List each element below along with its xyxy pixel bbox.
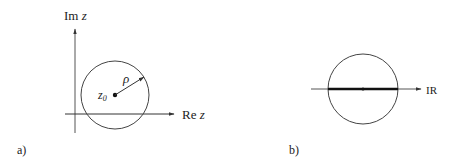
panel-a-label: a) bbox=[17, 143, 26, 157]
im-axis-label: Im z bbox=[64, 8, 87, 23]
diagram-canvas: Im z Re z z0 ρ a) IR b) bbox=[0, 0, 450, 165]
real-axis-label: IR bbox=[426, 84, 438, 96]
panel-b: IR b) bbox=[289, 54, 438, 157]
panel-b-label: b) bbox=[289, 143, 299, 157]
radius-label: ρ bbox=[122, 71, 129, 86]
radius-arrow bbox=[115, 77, 144, 95]
center-label: z0 bbox=[97, 88, 107, 103]
center-point-b bbox=[362, 88, 365, 91]
panel-a: Im z Re z z0 ρ a) bbox=[17, 8, 205, 157]
re-axis-label: Re z bbox=[182, 107, 205, 122]
